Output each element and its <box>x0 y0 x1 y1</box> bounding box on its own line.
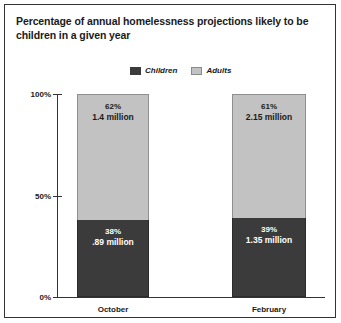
bar-segment-adults-february: 61% 2.15 million <box>232 94 306 218</box>
segment-percent-label: 38% <box>105 227 121 237</box>
legend-item-adults: Adults <box>191 66 231 75</box>
plot-area: 100% 50% 0% 62% 1.4 million 38% .89 mill… <box>57 94 325 297</box>
legend-item-children: Children <box>130 66 177 75</box>
bar-segment-children-october: 38% .89 million <box>77 220 149 297</box>
legend-label-children: Children <box>145 66 177 75</box>
chart-figure: Percentage of annual homelessness projec… <box>0 0 341 323</box>
legend-swatch-light-icon <box>191 67 202 75</box>
segment-percent-label: 62% <box>105 102 121 112</box>
y-tick-label-50: 50% <box>35 191 51 200</box>
segment-percent-label: 61% <box>261 102 277 112</box>
x-category-label-october: October <box>53 305 173 314</box>
legend-swatch-dark-icon <box>130 67 141 75</box>
y-tick-mark <box>53 94 62 95</box>
chart-title: Percentage of annual homelessness projec… <box>16 14 316 42</box>
bar-segment-adults-october: 62% 1.4 million <box>77 94 149 220</box>
y-tick-label-0: 0% <box>39 293 51 302</box>
y-tick-mark <box>53 196 62 197</box>
segment-count-label: 1.35 million <box>246 235 292 246</box>
y-tick-label-100: 100% <box>31 90 51 99</box>
x-axis-line <box>57 297 325 298</box>
y-tick-mark <box>53 297 62 298</box>
chart-legend: Children Adults <box>130 66 231 75</box>
segment-count-label: 2.15 million <box>246 112 292 123</box>
bar-segment-children-february: 39% 1.35 million <box>232 218 306 297</box>
bar-october: 62% 1.4 million 38% .89 million <box>77 94 149 297</box>
bar-february: 61% 2.15 million 39% 1.35 million <box>232 94 306 297</box>
legend-label-adults: Adults <box>206 66 231 75</box>
segment-percent-label: 39% <box>261 225 277 235</box>
segment-count-label: 1.4 million <box>92 112 134 123</box>
segment-count-label: .89 million <box>92 237 134 248</box>
x-category-label-february: February <box>209 305 329 314</box>
